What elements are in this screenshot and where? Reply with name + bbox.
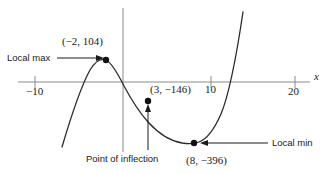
x-tick-label-10: 10 — [205, 84, 216, 95]
curve-path — [62, 12, 243, 147]
annotation-label-local-max: Local max — [7, 53, 50, 63]
annotation-point-local-max: (−2, 104) — [62, 36, 103, 47]
marker-local-min — [191, 140, 197, 146]
x-tick-label-20: 20 — [288, 86, 299, 97]
figure-cubic-curve-annotated: Local max (−2, 104) (3, −146) Point of i… — [0, 0, 327, 174]
annotation-label-point-of-inflection: Point of inflection — [86, 154, 158, 164]
inflection-arrow-head — [145, 104, 151, 112]
x-axis-label: x — [314, 71, 319, 82]
x-tick-label-neg10: −10 — [26, 86, 43, 97]
annotation-point-local-min: (8, −396) — [186, 155, 227, 166]
marker-local-max — [103, 57, 109, 63]
marker-point-of-inflection — [145, 98, 151, 104]
annotation-label-local-min: Local min — [272, 138, 313, 148]
annotation-point-inflection: (3, −146) — [150, 84, 191, 95]
